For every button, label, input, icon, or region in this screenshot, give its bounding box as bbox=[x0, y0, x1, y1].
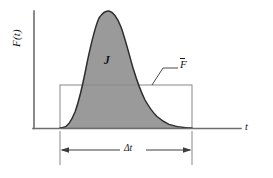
figure-canvas bbox=[0, 0, 273, 178]
y-axis-label: F(t) bbox=[11, 29, 22, 47]
duration-label: Δt bbox=[124, 144, 132, 154]
dimension-arrowhead-left bbox=[61, 147, 70, 153]
force-time-impulse-figure: F(t) t J F Δt bbox=[0, 0, 273, 178]
average-force-leader-line bbox=[152, 68, 178, 85]
impulse-label: J bbox=[104, 55, 110, 67]
average-force-label: F bbox=[180, 59, 187, 70]
dimension-arrowhead-right bbox=[183, 147, 192, 153]
impulse-area-fill bbox=[60, 11, 192, 128]
x-axis-label: t bbox=[245, 122, 248, 133]
average-force-symbol: F bbox=[180, 59, 187, 70]
